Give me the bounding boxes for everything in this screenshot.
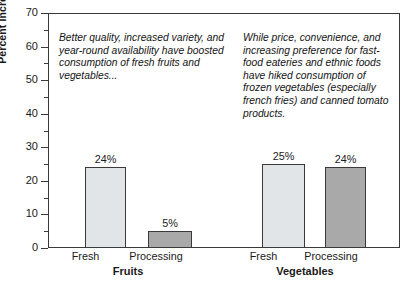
- bar-rect: [148, 231, 192, 248]
- bar-rect: [262, 164, 305, 248]
- y-tick-mark: [41, 248, 48, 249]
- y-tick-label-20: 20: [26, 174, 38, 186]
- bar-value-label: 24%: [335, 153, 357, 165]
- bar-fruits-processing: 5%: [148, 231, 192, 248]
- y-tick-mark: [41, 80, 48, 81]
- x-tick-label-fruits-fresh: Fresh: [65, 250, 106, 262]
- x-group-label-vegetables: Vegetables: [245, 265, 365, 277]
- x-tick-label-fruits-processing: Processing: [118, 250, 194, 262]
- y-tick-mark: [41, 214, 48, 215]
- y-tick-mark: [41, 114, 48, 115]
- y-tick-label-40: 40: [26, 107, 38, 119]
- y-tick-label-70: 70: [26, 6, 38, 18]
- bar-value-label: 24%: [95, 153, 117, 165]
- y-tick-mark: [41, 147, 48, 148]
- bar-vegetables-fresh: 25%: [262, 164, 305, 248]
- y-tick-label-50: 50: [26, 73, 38, 85]
- y-tick-mark: [41, 13, 48, 14]
- bar-rect: [85, 167, 126, 248]
- y-axis: 0 10 20 30 40: [0, 0, 48, 284]
- y-tick-label-60: 60: [26, 40, 38, 52]
- bar-vegetables-processing: 24%: [325, 167, 366, 248]
- bar-value-label: 25%: [273, 150, 295, 162]
- x-axis: Fresh Processing Fresh Processing Fruits…: [0, 250, 417, 284]
- x-tick-label-vegetables-fresh: Fresh: [242, 250, 285, 262]
- y-tick-label-10: 10: [26, 207, 38, 219]
- bar-rect: [325, 167, 366, 248]
- bars-layer: 24% 5% 25% 24%: [48, 13, 400, 248]
- x-group-label-fruits: Fruits: [68, 265, 188, 277]
- bar-value-label: 5%: [162, 217, 178, 229]
- y-tick-mark: [41, 47, 48, 48]
- y-tick-mark: [41, 181, 48, 182]
- x-tick-label-vegetables-processing: Processing: [293, 250, 369, 262]
- chart-container: Percent Increase 0 10 20 30: [0, 0, 417, 284]
- bar-fruits-fresh: 24%: [85, 167, 126, 248]
- y-tick-label-30: 30: [26, 140, 38, 152]
